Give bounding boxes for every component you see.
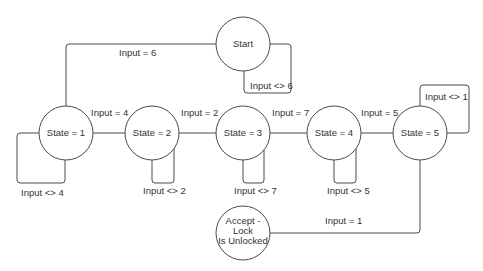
label-s5-self: Input <> 1 <box>425 91 468 102</box>
node-accept-label-line-3: Is Unlocked <box>218 235 268 246</box>
node-state-1: State = 1 <box>39 106 93 160</box>
label-s2-to-s3: Input = 2 <box>181 107 218 118</box>
node-state-2: State = 2 <box>125 106 179 160</box>
node-state-1-label: State = 1 <box>47 127 85 138</box>
label-s5-to-accept: Input = 1 <box>325 215 362 226</box>
nodes: Start State = 1 State = 2 State = 3 Stat… <box>39 17 447 260</box>
label-s4-to-s5: Input = 5 <box>361 107 398 118</box>
node-start: Start <box>216 17 270 71</box>
label-s3-to-s4: Input = 7 <box>272 107 309 118</box>
label-s2-self: Input <> 2 <box>143 185 186 196</box>
node-state-5: State = 5 <box>393 106 447 160</box>
node-state-2-label: State = 2 <box>133 127 171 138</box>
state-diagram: Start State = 1 State = 2 State = 3 Stat… <box>0 0 483 271</box>
node-start-label: Start <box>233 38 253 49</box>
node-state-4: State = 4 <box>307 106 361 160</box>
node-state-3: State = 3 <box>216 106 270 160</box>
label-s3-self: Input <> 7 <box>234 185 277 196</box>
label-s1-to-s2: Input = 4 <box>91 107 128 118</box>
label-s1-self: Input <> 4 <box>21 187 64 198</box>
node-accept: Accept - Lock Is Unlocked <box>216 206 270 260</box>
node-state-5-label: State = 5 <box>401 127 439 138</box>
label-start-self: Input <> 6 <box>250 80 293 91</box>
label-start-to-s1: Input = 6 <box>119 47 156 58</box>
node-state-4-label: State = 4 <box>315 127 353 138</box>
node-state-3-label: State = 3 <box>224 127 262 138</box>
label-s4-self: Input <> 5 <box>327 185 370 196</box>
